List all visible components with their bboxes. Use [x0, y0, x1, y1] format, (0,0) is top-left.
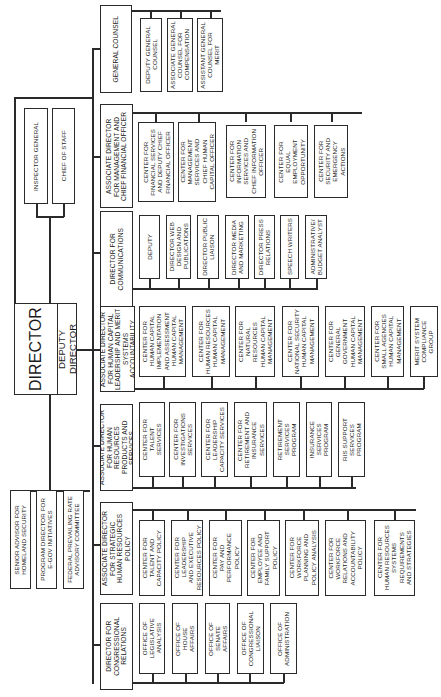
unit-label: CENTER FOR SMALL AGENCIES HUMAN CAPITAL …: [373, 314, 402, 369]
hrlmsa-unit-merit-compliance: MERIT SYSTEM COMPLIANCE GROUP: [410, 306, 438, 377]
unit-label: RETIREMENT SERVICES PROGRAM: [276, 419, 298, 460]
cong-unit-congressional-liaison: OFFICE OF CONGRESSIONAL LIAISON: [237, 603, 264, 674]
comm-unit-admin-budget: ADMINISTRATIVE/ BUDGET ANALYST: [305, 215, 327, 279]
comm-stem-4: [238, 278, 240, 289]
hrps-stem-1: [152, 476, 154, 488]
hrps-stem-6: [319, 476, 321, 488]
unit-label: DIRECTOR MEDIA AND MARKETING: [230, 220, 244, 275]
gc-unit-merit-label: ASSISTANT GENERAL COUNSEL FOR MERIT: [199, 22, 221, 89]
unit-label: CENTER FOR TALENT AND CAPACITY POLICY: [141, 530, 163, 586]
unit-label: DEPUTY: [146, 234, 153, 260]
cong-unit-administration: OFFICE OF ADMINISTRATION: [270, 603, 297, 674]
division-head-management-label: ASSOCIATE DIRECTOR FOR MANAGEMENT AND CH…: [105, 112, 128, 201]
shrp-unit-pay-performance: CENTER FOR PAY AND PERFORMANCE POLICY: [209, 520, 242, 596]
general-counsel-box: GENERAL COUNSEL: [100, 5, 132, 93]
hrps-unit-investigations: CENTER FOR INVESTIGATIONS SERVICES: [169, 402, 196, 477]
top-frame-left: [14, 97, 16, 305]
unit-label: CENTER FOR INFORMATION SERVICES AND CHIE…: [228, 129, 264, 194]
unit-label: OFFICE OF LEGISLATIVE ANALYSIS: [141, 618, 163, 658]
director-box: DIRECTOR: [14, 303, 58, 395]
unit-label: ADMINISTRATIVE/ BUDGET ANALYST: [309, 219, 323, 275]
unit-label: CENTER FOR EMPLOYEE AND FAMILY SUPPORT P…: [249, 531, 278, 585]
hrlmsa-stem-2: [211, 376, 213, 389]
unit-label: CENTER FOR HUMAN RESOURCES SYSTEMS REQUI…: [376, 525, 412, 590]
division-head-shrp: ASSOCIATE DIRECTOR FOR STRATEGIC HUMAN R…: [100, 502, 133, 595]
division-head-congressional-label: DIRECTOR FOR CONGRESSIONAL RELATIONS: [105, 617, 128, 676]
cong-stem-4: [249, 673, 251, 683]
management-unit-financial-services: CENTER FOR FINANCIAL SERVICES AND DEPUTY…: [138, 122, 174, 202]
gc-bracket: [131, 10, 221, 12]
division-head-hrlmsa-label: ASSOCIATE DIRECTOR FOR HUMAN CAPITAL LEA…: [100, 307, 135, 391]
unit-label: CENTER FOR RETIREMENT AND INSURANCE SERV…: [236, 412, 265, 468]
management-unit-information-services: CENTER FOR INFORMATION SERVICES AND CHIE…: [226, 125, 266, 198]
management-stem-3: [245, 112, 247, 122]
hrlmsa-bracket: [134, 388, 424, 390]
management-bracket: [132, 112, 362, 114]
advisory-egov-box: PROGRAM DIRECTOR FOR E-GOV INITIATIVES: [36, 490, 57, 589]
cos-stem: [63, 203, 65, 217]
hrlmsa-unit-implementation-assessment: CENTER FOR HUMAN CAPITAL IMPLEMENTATION …: [139, 306, 186, 377]
hrps-stem-7: [351, 476, 353, 488]
director-to-advisory-line: [49, 393, 51, 490]
shrp-unit-talent-capacity: CENTER FOR TALENT AND CAPACITY POLICY: [139, 520, 165, 596]
unit-label: CENTER FOR LEADERSHIP CAPACITY SERVICES: [204, 407, 226, 472]
advisory-homeland-security-box: SENIOR ADVISOR FOR HOMELAND SECURITY: [10, 490, 31, 589]
division-head-communications: DIRECTOR FOR COMMUNICATIONS: [100, 211, 133, 308]
hrlmsa-unit-small-agencies: CENTER FOR SMALL AGENCIES HUMAN CAPITAL …: [371, 306, 404, 377]
shrp-bracket: [132, 509, 416, 511]
director-label: DIRECTOR: [27, 307, 45, 391]
hrlmsa-stem-5: [344, 376, 346, 389]
hrlmsa-stem-4: [300, 376, 302, 389]
cong-stem-2: [185, 673, 187, 683]
advisory-egov-label: PROGRAM DIRECTOR FOR E-GOV INITIATIVES: [39, 498, 53, 581]
director-deputy-connector: [77, 349, 93, 351]
hrps-unit-insurance-program: INSURANCE SERVICES PROGRAM: [306, 402, 332, 477]
gc-unit-compensation-box: ASSOCIATE GENERAL COUNSEL FOR COMPENSATI…: [167, 18, 193, 92]
management-unit-management-services: CENTER FOR MANAGEMENT SERVICES AND CHIEF…: [178, 122, 216, 202]
gc-unit-deputy-box: DEPUTY GENERAL COUNSEL: [140, 18, 162, 92]
unit-label: CENTER FOR WORKFORCE PLANNING AND POLICY…: [288, 530, 317, 585]
unit-label: OFFICE OF SENATE AFFAIRS: [207, 622, 229, 656]
unit-label: DIRECTOR WEB DESIGN AND PUBLICATIONS: [168, 222, 190, 271]
unit-label: CENTER FOR NATIONAL SECURITY HUMAN CAPIT…: [286, 309, 315, 374]
unit-label: CENTER FOR GENERAL GOVERNMENT HUMAN CAPI…: [327, 316, 363, 367]
chief-of-staff-box: CHIEF OF STAFF: [52, 108, 75, 204]
chief-of-staff-label: CHIEF OF STAFF: [60, 130, 67, 181]
hrps-stem-4: [250, 476, 252, 488]
gc-unit-deputy-label: DEPUTY GENERAL COUNSEL: [144, 26, 158, 84]
hrlmsa-stem-7: [423, 376, 425, 389]
unit-label: OFFICE OF CONGRESSIONAL LIAISON: [240, 611, 262, 666]
unit-label: CENTER FOR EQUAL EMPLOYMENT OPPORTUNITY: [277, 139, 306, 185]
hrlmsa-stem-6: [387, 376, 389, 389]
comm-unit-media-marketing: DIRECTOR MEDIA AND MARKETING: [225, 215, 249, 279]
unit-label: DIRECTOR PRESS RELATIONS: [257, 219, 271, 275]
unit-label: CENTER FOR SECURITY AND EMERGENCY ACTION…: [317, 138, 346, 185]
comm-stem-6: [289, 278, 291, 289]
unit-label: DIRECTOR PUBLIC LIAISON: [201, 218, 215, 276]
division-head-communications-label: DIRECTOR FOR COMMUNICATIONS: [109, 228, 124, 290]
unit-label: OFFICE OF ADMINISTRATION: [276, 612, 290, 666]
main-spine-line: [92, 48, 94, 684]
unit-label: OFFICE OF HOUSE AFFAIRS: [174, 622, 196, 656]
hrlmsa-stem-3: [255, 376, 257, 389]
staff-to-director-line: [49, 216, 51, 306]
hrps-unit-retirement-insurance: CENTER FOR RETIREMENT AND INSURANCE SERV…: [234, 402, 267, 477]
unit-label: INSURANCE SERVICES PROGRAM: [308, 421, 330, 458]
comm-unit-web-design: DIRECTOR WEB DESIGN AND PUBLICATIONS: [166, 215, 191, 279]
comm-unit-press-relations: DIRECTOR PRESS RELATIONS: [254, 215, 275, 279]
hrps-stem-3: [214, 476, 216, 488]
shrp-unit-hr-systems: CENTER FOR HUMAN RESOURCES SYSTEMS REQUI…: [374, 520, 415, 596]
cong-unit-senate-affairs: OFFICE OF SENATE AFFAIRS: [205, 603, 230, 674]
hrlmsa-stem-1: [163, 376, 165, 389]
division-head-hrps: ASSOCIATE DIRECTOR FOR HUMAN RESOURCES P…: [100, 404, 133, 491]
deputy-director-label: DEPUTY DIRECTOR: [57, 304, 77, 394]
congressional-bracket: [132, 682, 284, 684]
unit-label: RIS SUPPORT SERVICES PROGRAM: [341, 418, 363, 461]
comm-unit-deputy: DEPUTY: [139, 215, 160, 279]
general-counsel-label: GENERAL COUNSEL: [112, 16, 120, 82]
gc-unit-compensation-label: ASSOCIATE GENERAL COUNSEL FOR COMPENSATI…: [169, 21, 191, 89]
hrps-unit-talent-services: CENTER FOR TALENT SERVICES: [139, 402, 165, 477]
inspector-general-label: INSPECTOR GENERAL: [32, 122, 39, 191]
management-unit-eeo: CENTER FOR EQUAL EMPLOYMENT OPPORTUNITY: [274, 125, 308, 198]
shrp-unit-workforce-planning: CENTER FOR WORKFORCE PLANNING AND POLICY…: [285, 520, 319, 596]
